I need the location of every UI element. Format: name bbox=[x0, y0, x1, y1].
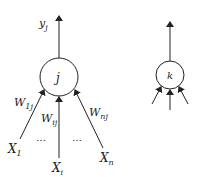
weight-wij: Wij bbox=[41, 112, 58, 127]
input-label-xi: Xi bbox=[51, 161, 64, 177]
neuron-k-label: k bbox=[167, 70, 173, 81]
weight-wnj: Wnj bbox=[89, 106, 108, 121]
neuron-diagram: j yj W1j Wij Wnj … … X1 Xi Xn k bbox=[0, 0, 200, 177]
ellipsis-right: … bbox=[72, 132, 82, 143]
input-label-x1: X1 bbox=[7, 142, 22, 158]
neuron-k: k bbox=[152, 22, 188, 110]
input-arrow-k-left bbox=[152, 87, 161, 104]
output-label-y: yj bbox=[38, 17, 48, 32]
ellipsis-left: … bbox=[36, 132, 46, 143]
input-label-xn: Xn bbox=[99, 151, 114, 167]
input-arrow-k-right bbox=[179, 87, 188, 104]
neuron-j-label: j bbox=[53, 71, 60, 85]
neuron-j: j yj W1j Wij Wnj … … X1 Xi Xn bbox=[7, 16, 114, 177]
weight-w1j: W1j bbox=[14, 96, 33, 111]
